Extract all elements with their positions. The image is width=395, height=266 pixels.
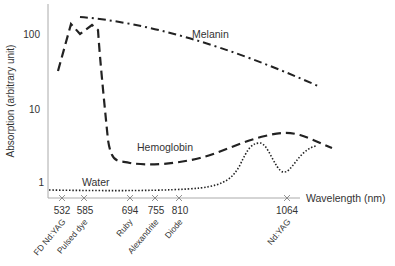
y-axis-label: Absorption (arbitrary unit) [5,45,16,158]
absorption-chart: Absorption (arbitrary unit) 100 10 1 Wav… [0,0,395,266]
hemoglobin-label: Hemoglobin [137,141,193,153]
y-tick-1: 1 [38,177,44,188]
wl-1064: 1064 [276,205,299,216]
laser-ruby: Ruby [114,216,135,238]
wl-532: 532 [54,205,71,216]
wl-585: 585 [77,205,94,216]
x-axis-label: Wavelength (nm) [306,192,386,204]
water-label: Water [82,176,110,188]
laser-ndyag: Nd:YAG [265,217,292,247]
y-tick-100: 100 [23,29,40,40]
wl-810: 810 [172,205,189,216]
laser-diode: Diode [163,217,185,241]
wl-755: 755 [148,205,165,216]
melanin-label: Melanin [192,28,229,40]
y-tick-10: 10 [29,104,41,115]
hemoglobin-curve [58,24,332,164]
wl-694: 694 [122,205,139,216]
